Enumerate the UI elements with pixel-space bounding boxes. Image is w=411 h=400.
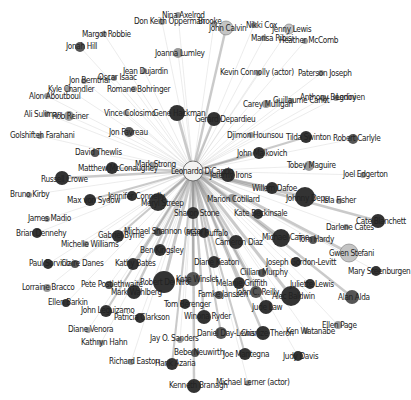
node-label-kate-winslet: Kate Winslet: [176, 274, 218, 284]
node-label-don-keith-opperman: Don Keith Opperman: [134, 16, 205, 26]
node-label-hank-azaria: Hank Azaria: [155, 358, 195, 368]
node-label-bebe-neuwirth: Bebe Neuwirth: [174, 347, 225, 357]
node-label-cillian-murphy: Cillian Murphy: [240, 267, 289, 277]
node-label-kate-beckinsale: Kate Beckinsale: [234, 208, 288, 218]
node-label-robert-carlyle: Robert Carlyle: [333, 133, 381, 143]
node-label-kathy-bates: Kathy Bates: [115, 258, 156, 268]
node-label-jay-o-sanders: Jay O. Sanders: [149, 333, 199, 343]
node-label-judy-davis: Judy Davis: [282, 351, 319, 361]
node-label-john-malkovich: John Malkovich: [236, 148, 288, 158]
node-label-mark-wahlberg: Mark Wahlberg: [111, 287, 162, 297]
node-label-james-madio: James Madio: [27, 213, 72, 223]
node-label-diane-venora: Diane Venora: [68, 324, 113, 334]
hub-label: Leonardo DiCaprio: [171, 166, 234, 176]
node-label-ken-watanabe: Ken Watanabe: [286, 326, 336, 336]
node-label-john-calvin: John Calvin: [208, 23, 247, 33]
node-label-russell-crowe: Russell Crowe: [41, 174, 88, 184]
node-label-jonah-hill: Jonah Hill: [65, 41, 97, 51]
node-label-michael-lerner-actor: Michael Lerner (actor): [216, 377, 290, 387]
node-label-claire-danes: Claire Danes: [61, 258, 104, 268]
node-label-ledoyen: Ledoyen: [336, 92, 365, 102]
node-label-jude-law: Jude Law: [251, 302, 283, 312]
node-label-willem-dafoe: Willem Dafoe: [252, 183, 298, 193]
node-label-paterson-joseph: Paterson Joseph: [298, 68, 352, 78]
node-label-tobey-maguire: Tobey Maguire: [286, 160, 336, 170]
node-label-darlene-cates: Darlene Cates: [326, 222, 374, 232]
node-label-joanna-lumley: Joanna Lumley: [154, 48, 206, 58]
node-label-brian-dennehy: Brian Dennehy: [16, 228, 67, 238]
node-label-richard-easton: Richard Easton: [109, 356, 160, 366]
node-label-sharon-stone: Sharon Stone: [174, 208, 220, 218]
node-label-golshifteh-farahani: Golshifteh Farahani: [10, 130, 75, 140]
node-label-alec-baldwin: Alec Baldwin: [272, 291, 316, 301]
node-label-michelle-williams: Michelle Williams: [61, 239, 119, 249]
node-label-meryl-streep: Meryl Streep: [141, 198, 184, 208]
node-label-lorraine-bracco: Lorraine Bracco: [22, 282, 75, 292]
node-label-tom-hardy: Tom Hardy: [297, 234, 335, 244]
node-label-joe-mantegna: Joe Mantegna: [222, 349, 269, 359]
node-label-margot-robbie: Margot Robbie: [82, 29, 132, 39]
node-label-vince-colosimo: Vince Colosimo: [104, 108, 156, 118]
node-label-rob-reiner: Rob Reiner: [52, 111, 90, 121]
node-label-jon-favreau: Jon Favreau: [108, 127, 148, 137]
node-label-heather-mccomb: Heather McComb: [279, 35, 339, 45]
node-label-gerard-depardieu: Gerard Depardieu: [195, 114, 255, 124]
node-label-alon-aboutboul: Alon Aboutboul: [29, 91, 81, 101]
node-label-winona-ryder: Winona Ryder: [184, 311, 232, 321]
node-label-marion-cotillard: Marion Cotillard: [207, 194, 260, 204]
node-label-djimon-hounsou: Djimon Hounsou: [227, 130, 283, 140]
node-label-ben-kingsley: Ben Kingsley: [140, 245, 184, 255]
node-label-joel-edgerton: Joel Edgerton: [342, 169, 388, 179]
node-label-joseph-gordon-levitt: Joseph Gordon-Levitt: [265, 257, 336, 267]
node-label-juliette-lewis: Juliette Lewis: [289, 279, 334, 289]
network-graph[interactable]: Nina AxelrodDon Keith OppermanBrookeJohn…: [0, 0, 411, 400]
node-label-patricia-clarkson: Patricia Clarkson: [114, 312, 170, 322]
node-label-david-thewlis: David Thewlis: [75, 147, 122, 157]
node-label-mary-steenburgen: Mary Steenburgen: [348, 266, 411, 276]
node-label-kathryn-hahn: Kathryn Hahn: [81, 337, 128, 347]
node-label-romane-bohringer: Romane Bohringer: [107, 84, 171, 94]
node-label-matthew-mcconaughey: Matthew McConaughey: [78, 163, 159, 173]
node-label-alan-alda: Alan Alda: [338, 292, 370, 302]
node-label-tom-berenger: Tom Berenger: [163, 299, 212, 309]
node-label-bruno-kirby: Bruno Kirby: [10, 189, 50, 199]
node-label-isla-fisher: Isla Fisher: [323, 195, 357, 205]
node-label-diane-keaton: Diane Keaton: [194, 257, 240, 267]
node-label-cameron-diaz: Cameron Diaz: [215, 237, 263, 247]
node-label-kevin-connolly-actor: Kevin Connolly (actor): [220, 67, 294, 77]
node-label-tilda-swinton: Tilda Swinton: [285, 132, 331, 142]
